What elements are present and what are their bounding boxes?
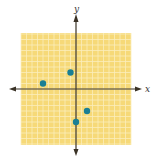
- y-axis-arrow-down-icon: [74, 149, 79, 156]
- data-point: [73, 119, 79, 125]
- y-axis-arrow-up-icon: [74, 14, 79, 22]
- x-axis-arrow-right-icon: [135, 87, 142, 92]
- data-point: [84, 108, 90, 114]
- y-axis-label: y: [73, 4, 80, 14]
- data-point: [67, 69, 73, 75]
- x-axis-arrow-left-icon: [9, 87, 16, 92]
- coordinate-plane: x y: [0, 0, 154, 160]
- x-axis-label: x: [145, 84, 150, 94]
- data-point: [40, 80, 46, 86]
